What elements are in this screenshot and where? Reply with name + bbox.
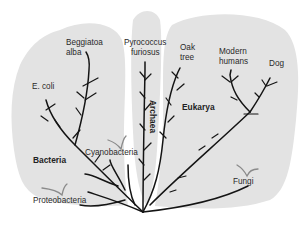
leaf-label-pyrococcus: Pyrococcus <box>124 38 166 47</box>
leaf-label-ecoli: E. coli <box>32 82 54 91</box>
leaf-label-pyrococcus: furiosus <box>131 48 160 57</box>
leaf-label-humans: Modern <box>219 47 247 56</box>
leaf-label-beggiatoa: alba <box>66 48 82 57</box>
leaf-label-fungi: Fungi <box>233 177 254 186</box>
leaf-label-beggiatoa: Beggiatoa <box>66 38 103 47</box>
domain-label-bacteria: Bacteria <box>33 155 66 165</box>
leaf-label-oak: Oak <box>180 43 196 52</box>
leaf-label-cyanobacteria: Cyanobacteria <box>85 148 138 157</box>
leaf-label-proteobacteria: Proteobacteria <box>33 196 87 205</box>
domain-label-eukarya: Eukarya <box>182 102 215 112</box>
leaf-label-oak: tree <box>180 53 195 62</box>
tree-of-life-diagram: Beggiatoa alba E. coli Pyrococcus furios… <box>0 0 306 230</box>
leaf-label-dog: Dog <box>269 59 284 68</box>
domain-label-archaea: Archaea <box>148 100 158 133</box>
leaf-label-humans: humans <box>219 57 248 66</box>
